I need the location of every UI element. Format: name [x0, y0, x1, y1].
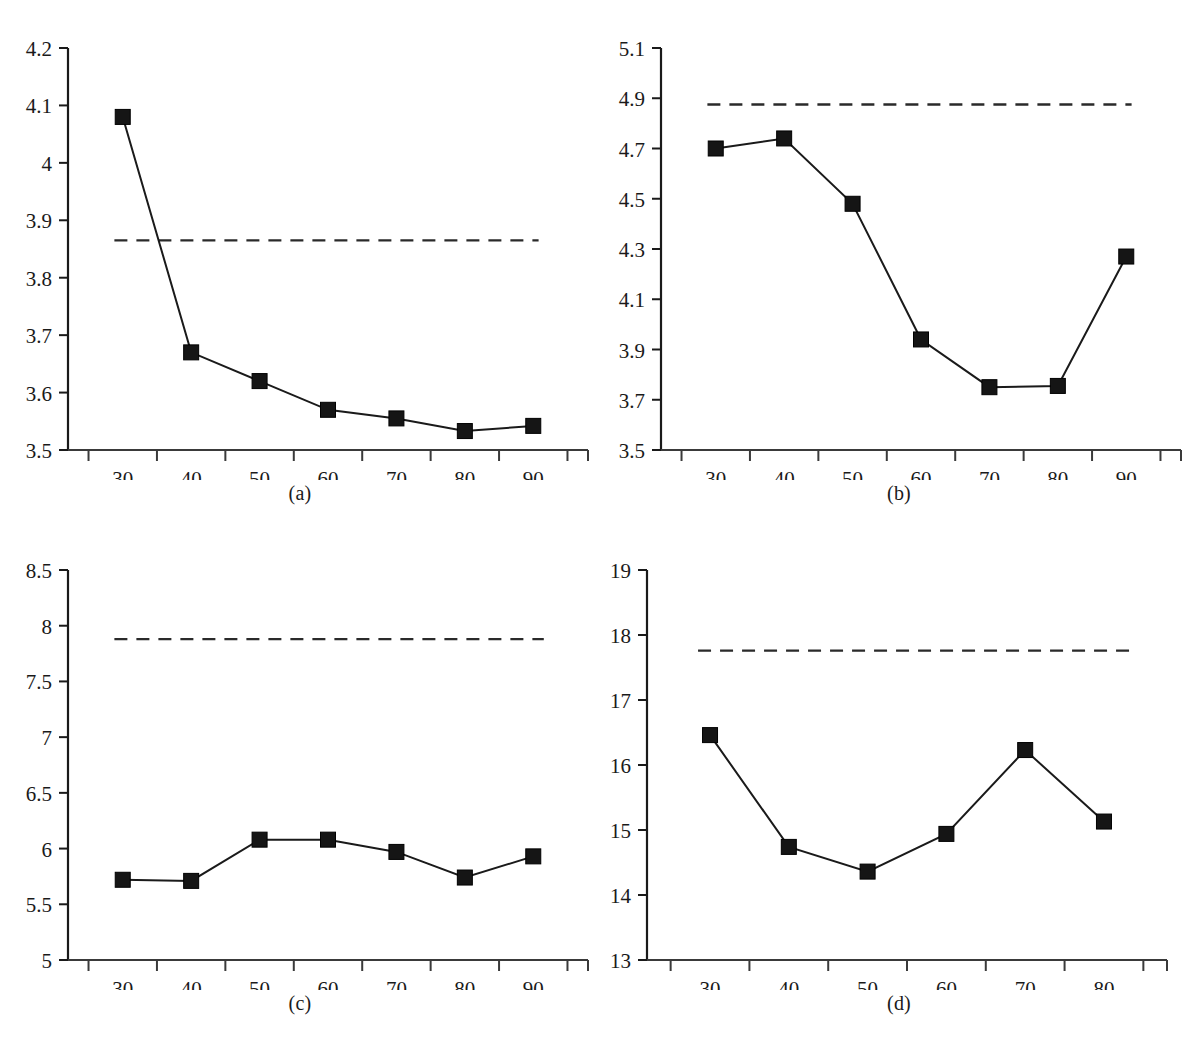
x-axis-tick-label: 60	[936, 977, 957, 990]
data-point-marker[interactable]	[115, 109, 130, 124]
y-axis-tick-label: 4.2	[26, 37, 52, 61]
y-axis-tick-label: 6	[42, 838, 53, 862]
y-axis-tick-label: 5.1	[619, 37, 645, 61]
x-axis-tick-label: 80	[454, 977, 475, 990]
y-axis-tick-label: 19	[610, 559, 631, 583]
y-axis-tick-label: 4.7	[619, 138, 645, 162]
data-point-marker[interactable]	[1096, 814, 1111, 829]
data-point-marker[interactable]	[526, 849, 541, 864]
data-point-marker[interactable]	[252, 374, 267, 389]
data-point-marker[interactable]	[457, 870, 472, 885]
y-axis-tick-label: 15	[610, 819, 631, 843]
y-axis-tick-label: 7	[42, 726, 53, 750]
y-axis-tick-label: 18	[610, 624, 631, 648]
y-axis-tick-label: 4.9	[619, 87, 645, 111]
y-axis-tick-label: 3.9	[619, 339, 645, 363]
x-axis-tick-label: 40	[181, 977, 202, 990]
y-axis-tick-label: 3.5	[619, 439, 645, 463]
chart-plot-d: 13141516171819304050607080	[599, 540, 1199, 990]
data-point-marker[interactable]	[321, 402, 336, 417]
data-point-marker[interactable]	[703, 728, 718, 743]
y-axis-tick-label: 17	[610, 689, 631, 713]
y-axis-tick-label: 5.5	[26, 893, 52, 917]
data-point-marker[interactable]	[184, 873, 199, 888]
data-point-marker[interactable]	[389, 411, 404, 426]
data-point-marker[interactable]	[708, 141, 723, 156]
chart-panel-d: 13141516171819304050607080 (d)	[599, 540, 1199, 990]
data-line	[716, 138, 1127, 387]
data-point-marker[interactable]	[939, 826, 954, 841]
data-point-marker[interactable]	[860, 864, 875, 879]
data-line	[123, 117, 534, 431]
x-axis-tick-label: 70	[979, 467, 1000, 480]
data-point-marker[interactable]	[115, 872, 130, 887]
data-point-marker[interactable]	[321, 832, 336, 847]
y-axis-tick-label: 4.1	[619, 288, 645, 312]
chart-panel-b: 3.53.73.94.14.34.54.74.95.13040506070809…	[599, 10, 1199, 480]
data-point-marker[interactable]	[1018, 743, 1033, 758]
x-axis-tick-label: 30	[705, 467, 726, 480]
x-axis-tick-label: 90	[523, 467, 544, 480]
x-axis-tick-label: 70	[386, 467, 407, 480]
x-axis-tick-label: 30	[700, 977, 721, 990]
y-axis-tick-label: 8.5	[26, 559, 52, 583]
y-axis-tick-label: 14	[610, 884, 632, 908]
y-axis-tick-label: 8	[42, 615, 53, 639]
x-axis-tick-label: 50	[249, 977, 270, 990]
x-axis-tick-label: 90	[1116, 467, 1137, 480]
y-axis-tick-label: 4	[42, 152, 53, 176]
x-axis-tick-label: 80	[454, 467, 475, 480]
data-point-marker[interactable]	[1050, 378, 1065, 393]
panel-caption-d: (d)	[599, 992, 1199, 1015]
figure-container: 3.53.63.73.83.944.14.230405060708090 (a)…	[0, 0, 1199, 1062]
panel-caption-c: (c)	[0, 992, 600, 1015]
x-axis-tick-label: 60	[318, 467, 339, 480]
x-axis-tick-label: 40	[181, 467, 202, 480]
y-axis-tick-label: 7.5	[26, 670, 52, 694]
data-point-marker[interactable]	[982, 380, 997, 395]
data-point-marker[interactable]	[252, 832, 267, 847]
x-axis-tick-label: 50	[249, 467, 270, 480]
x-axis-tick-label: 60	[318, 977, 339, 990]
y-axis-tick-label: 3.9	[26, 209, 52, 233]
x-axis-tick-label: 70	[1015, 977, 1036, 990]
x-axis-tick-label: 70	[386, 977, 407, 990]
y-axis-tick-label: 3.7	[619, 389, 645, 413]
data-point-marker[interactable]	[1119, 249, 1134, 264]
chart-panel-c: 55.566.577.588.530405060708090 (c)	[0, 540, 600, 990]
x-axis-tick-label: 50	[842, 467, 863, 480]
y-axis-tick-label: 4.5	[619, 188, 645, 212]
x-axis-tick-label: 80	[1047, 467, 1068, 480]
y-axis-tick-label: 6.5	[26, 782, 52, 806]
x-axis-tick-label: 40	[774, 467, 795, 480]
panel-caption-b: (b)	[599, 482, 1199, 505]
x-axis-tick-label: 50	[857, 977, 878, 990]
data-point-marker[interactable]	[777, 131, 792, 146]
y-axis-tick-label: 3.7	[26, 324, 52, 348]
data-point-marker[interactable]	[457, 424, 472, 439]
y-axis-tick-label: 3.5	[26, 439, 52, 463]
x-axis-tick-label: 60	[911, 467, 932, 480]
data-line	[710, 735, 1104, 872]
x-axis-tick-label: 90	[523, 977, 544, 990]
chart-plot-a: 3.53.63.73.83.944.14.230405060708090	[0, 10, 600, 480]
chart-plot-b: 3.53.73.94.14.34.54.74.95.13040506070809…	[599, 10, 1199, 480]
x-axis-tick-label: 80	[1093, 977, 1114, 990]
x-axis-tick-label: 40	[778, 977, 799, 990]
data-point-marker[interactable]	[184, 345, 199, 360]
x-axis-tick-label: 30	[112, 977, 133, 990]
y-axis-tick-label: 3.8	[26, 267, 52, 291]
y-axis-tick-label: 5	[42, 949, 53, 973]
y-axis-tick-label: 4.3	[619, 238, 645, 262]
data-point-marker[interactable]	[845, 196, 860, 211]
data-point-marker[interactable]	[781, 839, 796, 854]
data-point-marker[interactable]	[526, 418, 541, 433]
panel-caption-a: (a)	[0, 482, 600, 505]
chart-plot-c: 55.566.577.588.530405060708090	[0, 540, 600, 990]
y-axis-tick-label: 3.6	[26, 382, 52, 406]
y-axis-tick-label: 4.1	[26, 94, 52, 118]
data-point-marker[interactable]	[389, 844, 404, 859]
y-axis-tick-label: 13	[610, 949, 631, 973]
data-point-marker[interactable]	[914, 332, 929, 347]
x-axis-tick-label: 30	[112, 467, 133, 480]
